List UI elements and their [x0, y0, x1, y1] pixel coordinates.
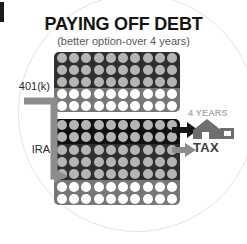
- dot: [143, 182, 153, 192]
- dot: [118, 120, 128, 130]
- dot: [81, 157, 91, 167]
- page-subtitle: (better option-over 4 years): [0, 35, 247, 47]
- dot: [118, 145, 128, 155]
- infographic-stage: PAYING OFF DEBT (better option-over 4 ye…: [0, 0, 247, 244]
- dot: [81, 182, 91, 192]
- dot: [69, 194, 79, 204]
- dot: [69, 182, 79, 192]
- dot: [94, 157, 104, 167]
- dot: [155, 120, 165, 130]
- dot-row: [54, 193, 180, 205]
- dot: [167, 89, 177, 99]
- label-401k: 401(k): [4, 80, 50, 92]
- dot: [69, 89, 79, 99]
- dot: [94, 182, 104, 192]
- dot: [167, 53, 177, 63]
- dot: [69, 101, 79, 111]
- dot: [69, 132, 79, 142]
- dot: [155, 182, 165, 192]
- dot: [106, 182, 116, 192]
- dot: [130, 77, 140, 87]
- dot: [143, 157, 153, 167]
- dot-row: [54, 76, 180, 88]
- dot-row: [54, 100, 180, 112]
- dot: [118, 182, 128, 192]
- dot: [81, 194, 91, 204]
- dot: [57, 194, 67, 204]
- dot: [143, 65, 153, 75]
- dot: [130, 53, 140, 63]
- dot: [118, 77, 128, 87]
- dot: [118, 169, 128, 179]
- dot: [94, 132, 104, 142]
- dot: [57, 77, 67, 87]
- dot: [143, 194, 153, 204]
- dot: [94, 194, 104, 204]
- dot: [57, 65, 67, 75]
- dot: [106, 101, 116, 111]
- dot: [155, 169, 165, 179]
- dot: [143, 89, 153, 99]
- dot: [69, 65, 79, 75]
- dot: [155, 157, 165, 167]
- dot-block-401k: [54, 52, 180, 112]
- dot: [143, 145, 153, 155]
- dot: [155, 145, 165, 155]
- dot: [155, 132, 165, 142]
- dot: [94, 101, 104, 111]
- dot: [106, 145, 116, 155]
- dot: [130, 65, 140, 75]
- dot: [69, 77, 79, 87]
- dot: [81, 101, 91, 111]
- dot: [81, 169, 91, 179]
- dot: [167, 194, 177, 204]
- dot: [130, 169, 140, 179]
- dot: [167, 65, 177, 75]
- dot: [155, 101, 165, 111]
- dot: [118, 89, 128, 99]
- dot: [130, 120, 140, 130]
- dot: [130, 182, 140, 192]
- dot: [106, 77, 116, 87]
- dot-row: [54, 156, 180, 168]
- dot: [81, 120, 91, 130]
- dot: [167, 101, 177, 111]
- dot: [81, 53, 91, 63]
- dot: [130, 145, 140, 155]
- dot: [94, 77, 104, 87]
- dot: [130, 132, 140, 142]
- dot: [118, 194, 128, 204]
- dot: [167, 157, 177, 167]
- dot: [69, 145, 79, 155]
- dot: [69, 53, 79, 63]
- dot: [94, 120, 104, 130]
- dot: [143, 77, 153, 87]
- dot: [167, 182, 177, 192]
- dot-row: [54, 64, 180, 76]
- dot-row: [54, 180, 180, 192]
- dot: [106, 157, 116, 167]
- dot: [130, 101, 140, 111]
- dot: [118, 53, 128, 63]
- dot: [106, 132, 116, 142]
- dot: [81, 89, 91, 99]
- dot: [57, 53, 67, 63]
- dot: [106, 89, 116, 99]
- dot: [130, 194, 140, 204]
- dot: [155, 77, 165, 87]
- dot: [106, 53, 116, 63]
- dot: [167, 77, 177, 87]
- tax-label: TAX: [193, 140, 219, 155]
- house-icon: [191, 118, 235, 140]
- dot: [94, 65, 104, 75]
- dot: [94, 169, 104, 179]
- dot: [155, 65, 165, 75]
- dot: [143, 120, 153, 130]
- dot: [106, 120, 116, 130]
- dot-block-ira: [54, 119, 180, 205]
- connector-arrow: [24, 92, 68, 190]
- dot: [106, 65, 116, 75]
- dot-row: [54, 119, 180, 131]
- dot: [155, 194, 165, 204]
- dot-row: [54, 88, 180, 100]
